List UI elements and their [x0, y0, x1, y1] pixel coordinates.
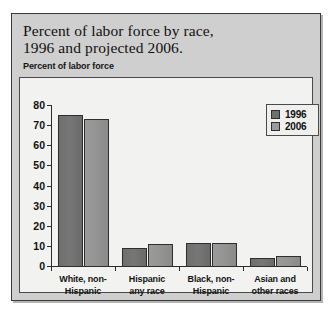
- bar-2006-1: [84, 119, 109, 267]
- y-axis-tick-label: 10: [23, 240, 45, 252]
- x-axis-tick-mark: [179, 267, 180, 271]
- bar-1996-4: [250, 258, 275, 267]
- x-axis-category-label: Hispanicany race: [115, 274, 179, 297]
- legend-item-label: 1996: [285, 109, 306, 120]
- y-axis-tick-label: 20: [23, 220, 45, 232]
- x-axis-tick-mark: [115, 267, 116, 271]
- x-axis-category-label: Asian andother races: [243, 274, 307, 297]
- y-axis-tick-label: 80: [23, 99, 45, 111]
- legend-item-label: 2006: [285, 121, 306, 132]
- x-axis-tick-mark: [307, 267, 308, 271]
- x-axis-tick-mark: [51, 267, 52, 271]
- x-axis-category-label-line: other races: [243, 286, 307, 298]
- y-axis-tick-mark: [47, 226, 51, 227]
- chart-figure-panel: Percent of labor force by race, 1996 and…: [11, 13, 321, 301]
- y-axis-tick-label: 30: [23, 200, 45, 212]
- chart-legend: 19962006: [266, 104, 319, 136]
- y-axis-tick-mark: [47, 105, 51, 106]
- bar-2006-4: [276, 256, 301, 267]
- y-axis-tick-mark: [47, 246, 51, 247]
- bar-2006-3: [212, 243, 237, 267]
- chart-title-line-1: Percent of labor force by race,: [23, 22, 214, 39]
- y-axis-tick-label: 60: [23, 139, 45, 151]
- y-axis-tick-mark: [47, 125, 51, 126]
- chart-subtitle-axis-label: Percent of labor force: [23, 61, 114, 71]
- y-axis-tick-mark: [47, 186, 51, 187]
- x-axis-category-label: White, non-Hispanic: [51, 274, 115, 297]
- bar-1996-3: [186, 243, 211, 267]
- x-axis-category-label-line: White, non-: [51, 274, 115, 286]
- plot-canvas: 01020304050607080 White, non-HispanicHis…: [20, 78, 312, 292]
- y-axis-tick-label: 70: [23, 119, 45, 131]
- chart-title: Percent of labor force by race, 1996 and…: [23, 22, 293, 56]
- y-axis-tick-mark: [47, 145, 51, 146]
- x-axis-category-label-line: Hispanic: [179, 286, 243, 298]
- legend-swatch-icon: [271, 110, 280, 119]
- y-axis-line: [51, 105, 52, 267]
- bar-2006-2: [148, 244, 173, 267]
- chart-title-line-2: 1996 and projected 2006.: [23, 39, 293, 56]
- legend-item-2006: 2006: [271, 120, 314, 132]
- x-axis-category-label-line: Asian and: [243, 274, 307, 286]
- y-axis-tick-label: 50: [23, 159, 45, 171]
- x-axis-tick-mark: [243, 267, 244, 271]
- x-axis-category-label-line: Hispanic: [51, 286, 115, 298]
- x-axis-category-label: Black, non-Hispanic: [179, 274, 243, 297]
- bar-1996-1: [58, 115, 83, 267]
- y-axis-tick-mark: [47, 206, 51, 207]
- bar-1996-2: [122, 248, 147, 267]
- legend-swatch-icon: [271, 122, 280, 131]
- plot-area: 01020304050607080 White, non-HispanicHis…: [19, 77, 313, 293]
- y-axis-tick-label: 40: [23, 180, 45, 192]
- y-axis-tick-label: 0: [23, 260, 45, 272]
- x-axis-category-label-line: Hispanic: [115, 274, 179, 286]
- y-axis-tick-mark: [47, 165, 51, 166]
- x-axis-category-label-line: any race: [115, 286, 179, 298]
- legend-item-1996: 1996: [271, 108, 314, 120]
- x-axis-category-label-line: Black, non-: [179, 274, 243, 286]
